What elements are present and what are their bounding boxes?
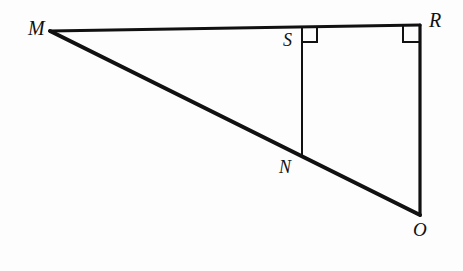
vertex-label-N: N (279, 158, 291, 176)
vertex-label-R: R (429, 10, 441, 30)
segment-MO (50, 31, 420, 215)
right-angle-mark-at-S (302, 27, 317, 42)
vertex-label-S: S (283, 31, 292, 49)
geometry-figure: M R S N O (0, 0, 463, 271)
vertex-label-M: M (28, 18, 45, 38)
figure-canvas (0, 0, 463, 271)
vertex-label-O: O (413, 220, 427, 239)
segment-MR (50, 25, 420, 31)
right-angle-mark-at-R (403, 26, 420, 42)
